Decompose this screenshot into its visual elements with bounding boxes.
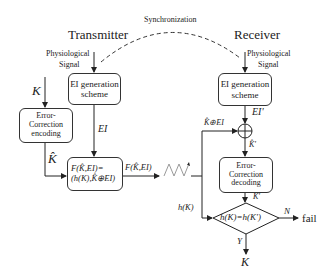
ec-encoding-box: Error- Correction encoding	[19, 108, 73, 143]
rx-signal-label-1: Physiological	[247, 50, 291, 58]
k-prime-label: K'	[253, 193, 260, 201]
rx-ei-generation-box: EI generation scheme	[218, 73, 272, 106]
tx-ei-line-1: EI generation	[70, 79, 119, 89]
hk-edge-label: h(K)	[178, 203, 194, 212]
ec-enc-line-3: encoding	[31, 130, 60, 139]
rx-ei-line-2: scheme	[232, 90, 259, 100]
transmitter-title: Transmitter	[68, 28, 128, 41]
sync-label: Synchronization	[144, 16, 196, 24]
decision-label: h(K)=h(K')	[220, 213, 261, 222]
f-function-box: F(K̂,EI)= (h(K),K̂⊕EI)	[67, 157, 123, 191]
tx-signal-label-2: Signal	[59, 61, 79, 69]
no-label: N	[284, 207, 290, 216]
khat-edge-label: K̂	[48, 152, 57, 165]
fail-label: fail	[302, 213, 317, 224]
rx-signal-label-2: Signal	[258, 61, 278, 69]
channel-zigzag-icon	[164, 164, 188, 176]
ei-prime-label: EI'	[252, 107, 264, 117]
khat-prime-label: K̂'	[249, 141, 256, 149]
key-input-label: K	[32, 84, 41, 97]
tx-ei-line-2: scheme	[81, 89, 108, 99]
tx-signal-label-1: Physiological	[46, 50, 90, 58]
f-output-label: F(K̂,EI)	[125, 163, 152, 172]
tx-ei-generation-box: EI generation scheme	[68, 73, 121, 105]
ec-dec-line-3: decoding	[231, 179, 260, 188]
ec-decoding-box: Error- Correction decoding	[219, 157, 273, 193]
f-line-2: (h(K),K̂⊕EI)	[71, 174, 115, 184]
receiver-title: Receiver	[234, 28, 280, 41]
rx-ei-line-1: EI generation	[221, 79, 270, 89]
yes-label: Y	[237, 237, 242, 246]
khat-xor-ei-label: K̂⊕EI	[204, 119, 224, 127]
ei-edge-label: EI	[98, 124, 107, 134]
output-key-label: K	[241, 256, 249, 268]
